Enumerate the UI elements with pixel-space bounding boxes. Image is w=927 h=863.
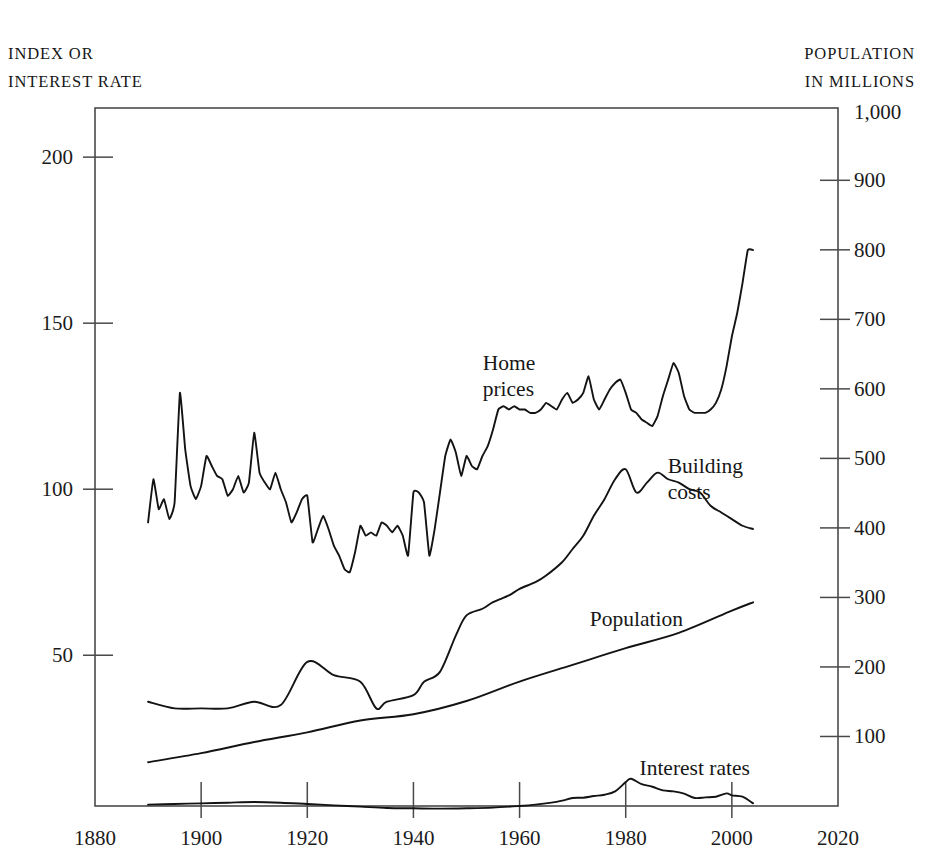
right-tick-label-300: 300 (854, 585, 886, 610)
left-axis-ticks (83, 157, 113, 655)
left-tick-label-150: 150 (42, 311, 74, 336)
series-label-interest-rates: Interest rates (639, 755, 749, 781)
right-axis-caption-line-2: IN MILLIONS (804, 68, 915, 96)
right-tick-label-800: 800 (854, 237, 886, 262)
right-tick-label-500: 500 (854, 446, 886, 471)
series-label-line-2: prices (483, 376, 536, 402)
series-label-line-2: costs (668, 479, 743, 505)
series-label-home: Homeprices (483, 350, 536, 402)
bottom-tick-label-2020: 2020 (817, 826, 859, 851)
right-axis-ticks (820, 180, 850, 736)
right-tick-label-1,000: 1,000 (854, 100, 901, 125)
left-tick-label-100: 100 (42, 477, 74, 502)
bottom-tick-label-2000: 2000 (711, 826, 753, 851)
right-tick-label-400: 400 (854, 515, 886, 540)
shiller-housing-chart: INDEX OR INTEREST RATE POPULATION IN MIL… (0, 0, 927, 863)
left-axis-caption: INDEX OR INTEREST RATE (8, 40, 143, 96)
right-tick-label-100: 100 (854, 724, 886, 749)
bottom-tick-label-1900: 1900 (180, 826, 222, 851)
right-tick-label-900: 900 (854, 168, 886, 193)
left-tick-label-200: 200 (42, 145, 74, 170)
series-label-building: Buildingcosts (668, 453, 743, 505)
curve-building-costs (148, 469, 753, 709)
series-label-line-1: Building (668, 453, 743, 479)
left-axis-caption-line-2: INTEREST RATE (8, 68, 143, 96)
right-tick-label-200: 200 (854, 654, 886, 679)
series-label-population: Population (590, 606, 683, 632)
bottom-tick-label-1940: 1940 (392, 826, 434, 851)
right-axis-caption: POPULATION IN MILLIONS (804, 40, 915, 96)
bottom-tick-label-1980: 1980 (605, 826, 647, 851)
bottom-tick-label-1880: 1880 (74, 826, 116, 851)
bottom-tick-label-1920: 1920 (286, 826, 328, 851)
left-axis-caption-line-1: INDEX OR (8, 40, 143, 68)
right-tick-label-600: 600 (854, 376, 886, 401)
plot-area (0, 0, 927, 863)
series-label-line-1: Home (483, 350, 536, 376)
right-axis-caption-line-1: POPULATION (804, 40, 915, 68)
left-tick-label-50: 50 (52, 643, 73, 668)
bottom-tick-label-1960: 1960 (499, 826, 541, 851)
curve-home-prices (148, 249, 753, 572)
curve-interest-rates (148, 779, 753, 809)
right-tick-label-700: 700 (854, 307, 886, 332)
data-curves (148, 249, 753, 808)
